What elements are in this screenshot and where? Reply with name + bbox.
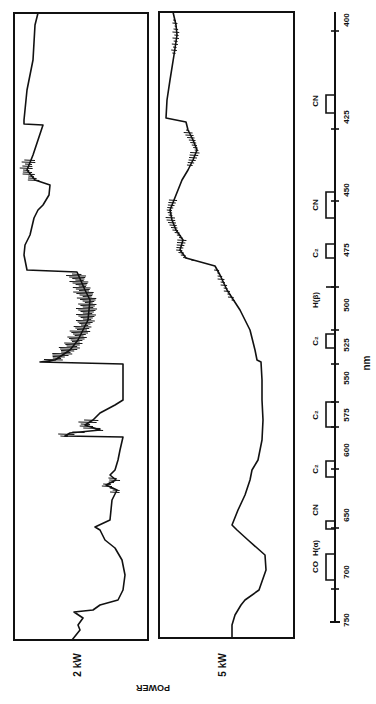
tick-label: 550 [342,371,351,385]
band-label: CN [311,504,320,516]
band-label: C₂ [311,248,320,258]
band-label: C₂ [311,336,320,346]
power-axis-title: POWER [136,683,171,693]
band-label: CN [311,199,320,211]
band-label: CO [311,561,320,573]
spectrum-chart: 400425450475500525550575600650700750 CNC… [0,0,376,704]
power-label-2kw: 2 kW [72,653,83,677]
tick-label: 700 [342,565,351,579]
tick-label: 575 [342,408,351,422]
c2-band-noise [20,20,235,493]
tick-label: 475 [342,243,351,257]
panel-5kw-frame [159,12,294,638]
band-label: C₂ [311,464,320,474]
tick-label: 600 [342,443,351,457]
band-markers: CNCNC₂H(β)C₂C₂C₂CNH(α)CO [311,95,335,580]
band-label: H(β) [311,292,320,308]
tick-label: 750 [342,613,351,627]
tick-label: 400 [342,13,351,27]
power-label-5kw: 5 kW [217,653,228,677]
band-label: H(α) [311,540,320,556]
band-label: C₂ [311,410,320,420]
tick-label: 650 [342,508,351,522]
tick-label: 425 [342,110,351,124]
tick-label: 450 [342,183,351,197]
tick-label: 500 [342,298,351,312]
tick-label: 525 [342,338,351,352]
band-label: CN [311,95,320,107]
unit-label-nm: nm [361,355,372,370]
trace-5kw [166,12,266,638]
